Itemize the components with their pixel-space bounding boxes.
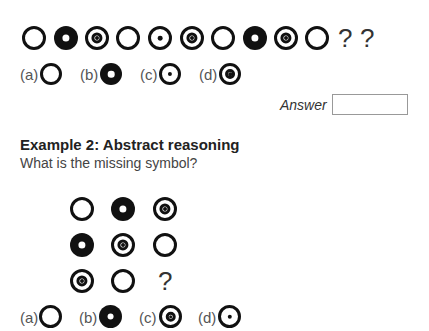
- option-c-label: (c): [139, 310, 157, 325]
- grid-ring-symbol: [111, 269, 135, 293]
- ring-symbol: [211, 26, 235, 50]
- option-a-label: (a): [20, 310, 38, 325]
- unknown-mark: ?: [360, 25, 374, 51]
- option-d-target-symbol[interactable]: [219, 63, 241, 85]
- donut-symbol: [54, 26, 78, 50]
- option-b-label: (b): [80, 67, 98, 82]
- option-d-label: (d): [199, 67, 217, 82]
- donut-symbol: [243, 26, 267, 50]
- option-c-target-symbol[interactable]: [159, 305, 182, 328]
- option-d-label: (d): [198, 310, 216, 325]
- option-a-ring-symbol[interactable]: [40, 63, 62, 85]
- option-a-ring-symbol[interactable]: [39, 305, 62, 328]
- unknown-mark: ?: [338, 25, 352, 51]
- grid-ring-symbol: [153, 233, 177, 257]
- target-symbol: [85, 26, 109, 50]
- option-b-donut-symbol[interactable]: [100, 63, 122, 85]
- option-b-donut-symbol[interactable]: [99, 305, 122, 328]
- target-symbol: [274, 26, 298, 50]
- option-c-label: (c): [140, 67, 158, 82]
- option-a-label: (a): [20, 67, 38, 82]
- example2-heading: Example 2: Abstract reasoning: [20, 136, 240, 153]
- grid-target-symbol: [153, 197, 177, 221]
- ring-symbol: [305, 26, 329, 50]
- grid-target-symbol: [111, 233, 135, 257]
- ring-symbol: [116, 26, 140, 50]
- ring-symbol: [22, 26, 46, 50]
- option-b-label: (b): [79, 310, 97, 325]
- target-symbol: [180, 26, 204, 50]
- grid-donut-symbol: [111, 197, 135, 221]
- answer-label: Answer: [280, 97, 327, 113]
- grid-ring-symbol: [70, 197, 94, 221]
- missing-mark: ?: [158, 268, 172, 294]
- answer-input[interactable]: [332, 94, 408, 115]
- option-c-dot-symbol[interactable]: [159, 63, 181, 85]
- option-d-dot-symbol[interactable]: [218, 305, 241, 328]
- grid-target-symbol: [70, 269, 94, 293]
- grid-donut-symbol: [70, 233, 94, 257]
- dot-symbol: [148, 26, 172, 50]
- example2-question: What is the missing symbol?: [20, 155, 197, 171]
